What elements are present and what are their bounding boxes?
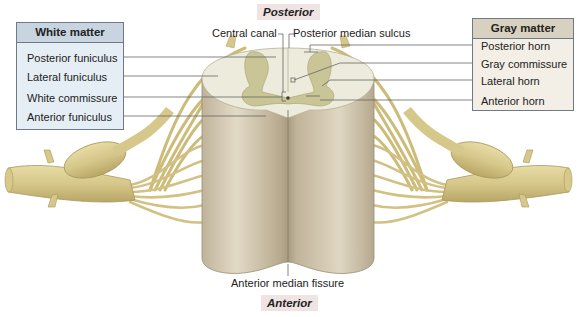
anterior-orientation-label: Anterior [261,295,318,311]
label-posterior-median-sulcus: Posterior median sulcus [293,27,410,40]
spinal-cord-body [202,36,374,273]
label-lateral-funiculus: Lateral funiculus [27,71,107,84]
white-matter-legend: White matter Posterior funiculus Lateral… [16,22,124,130]
spinal-cord-diagram: White matter Posterior funiculus Lateral… [0,0,577,317]
right-spinal-nerve [407,110,572,207]
posterior-orientation-label: Posterior [257,4,320,20]
label-posterior-funiculus: Posterior funiculus [27,52,118,65]
label-central-canal: Central canal [212,27,277,40]
label-anterior-funiculus: Anterior funiculus [27,111,112,124]
label-gray-commissure: Gray commissure [481,58,567,71]
white-matter-title: White matter [17,23,123,43]
label-lateral-horn: Lateral horn [481,75,540,88]
gray-matter-legend: Gray matter Posterior horn Gray commissu… [472,18,574,111]
label-anterior-median-fissure: Anterior median fissure [231,277,344,290]
label-posterior-horn: Posterior horn [481,40,550,53]
label-white-commissure: White commissure [27,92,117,105]
label-anterior-horn: Anterior horn [481,95,545,108]
gray-matter-title: Gray matter [473,19,573,39]
